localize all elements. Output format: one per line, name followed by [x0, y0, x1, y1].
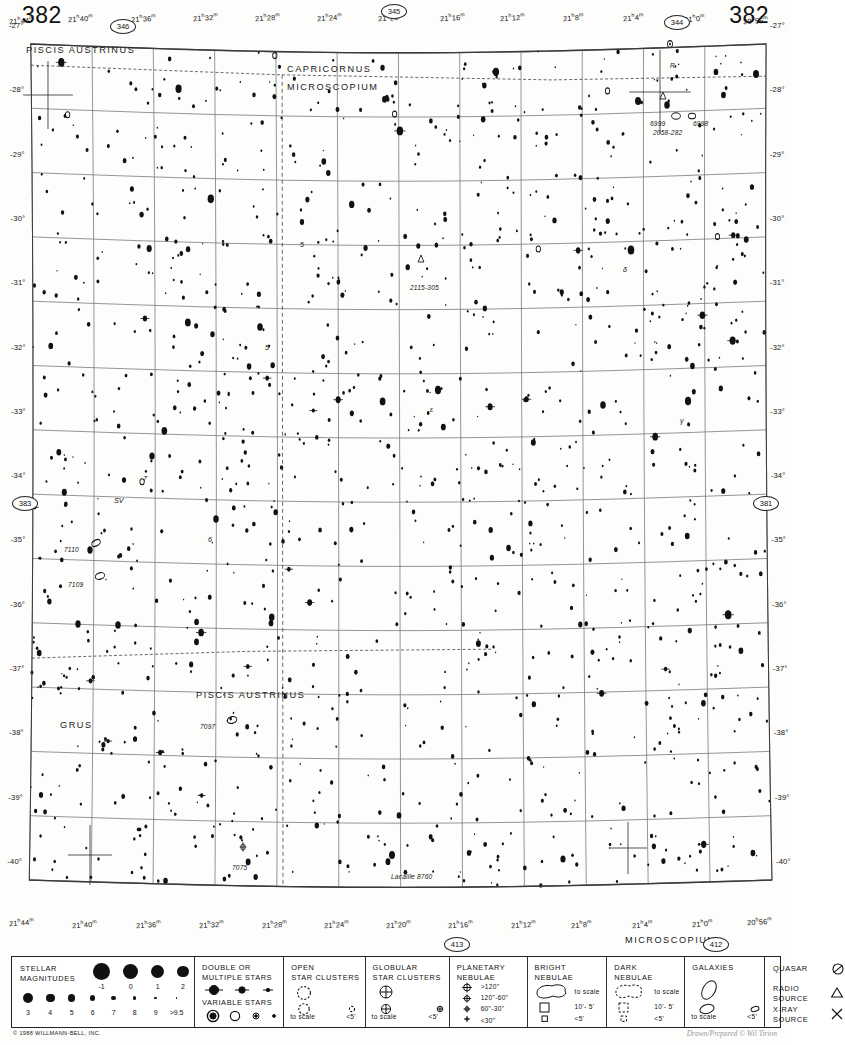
legend-galaxies-scale-label: to scale	[691, 1013, 716, 1020]
ra-label-bottom-7: 21h16m	[448, 919, 474, 930]
sky-map[interactable]: 21h44m21h40m21h36m21h32m21h28m21h24m21h2…	[0, 18, 791, 930]
legend-open-title-1: OPEN	[291, 963, 359, 973]
legend-mag->9.5: >9.5	[170, 997, 184, 1016]
neighbor-chart-383[interactable]: 383	[12, 496, 38, 511]
magnitude-value: 4	[43, 1009, 58, 1016]
dark-nebula-symbols	[613, 982, 653, 1022]
dec-label-right-11: -38°	[774, 729, 789, 737]
object-label-radio-2115-305: 2115-305	[410, 285, 439, 292]
legend-stellar-title-1: STELLAR	[20, 964, 75, 974]
legend-mag-2: 2	[174, 966, 191, 990]
legend-mag-1: 1	[148, 965, 167, 990]
artist-signature: Drawn/Prepared © Wil Tirion	[687, 1029, 777, 1038]
dec-label-right-13: -40°	[776, 858, 791, 866]
legend-dark-small-label: <5'	[654, 1015, 664, 1022]
star-field	[30, 49, 791, 888]
object-label-lacaille-8760: Lacaille 8760	[391, 874, 432, 881]
dec-label-right-6: -33°	[770, 408, 785, 416]
magnitude-value: 7	[107, 1009, 121, 1016]
star-label-star-delta: δ	[623, 266, 627, 273]
legend-mag--1: -1	[90, 963, 113, 990]
star-label-star-6: 6	[208, 536, 212, 543]
legend-open-scale-label: to scale	[290, 1013, 315, 1020]
legend-xray-label-2: SOURCE	[773, 1015, 808, 1025]
magnitude-value: 3	[20, 1009, 36, 1016]
magnitude-value: >9.5	[170, 1009, 184, 1016]
neighbor-chart-346[interactable]: 346	[110, 19, 136, 34]
legend-globular-clusters: GLOBULAR STAR CLUSTERS to scale <5'	[366, 957, 450, 1027]
magnitude-dot	[90, 995, 96, 1001]
ra-label-top-10: 21h4m	[623, 12, 644, 22]
legend-dark-title-1: DARK	[614, 963, 653, 973]
legend-planetary-nebulae: PLANETARY NEBULAE >120" 120"-60" 60"-30"…	[450, 957, 528, 1027]
magnitude-value: 2	[174, 983, 191, 990]
legend-planetary-size-0: >120"	[481, 983, 509, 990]
ra-label-bottom-2: 21h36m	[136, 919, 162, 930]
legend-double-title-1: DOUBLE OR	[202, 963, 272, 973]
legend-globular-small-label: <5'	[429, 1013, 439, 1020]
magnitude-value: 1	[148, 983, 167, 990]
legend-quasar-label: QUASAR	[773, 964, 808, 974]
dec-label-right-0: -27°	[770, 22, 785, 30]
magnitude-dot	[177, 966, 188, 977]
magnitude-dot	[93, 963, 110, 980]
neighbor-chart-381[interactable]: 381	[753, 496, 779, 511]
star-label-star-7: 7	[143, 475, 147, 482]
legend-planetary-size-1: 120"-60"	[481, 994, 509, 1001]
neighbor-chart-344[interactable]: 344	[664, 15, 690, 30]
ra-label-bottom-4: 21h28m	[261, 919, 287, 930]
legend-globular-title-2: STAR CLUSTERS	[373, 973, 441, 983]
legend-planetary-size-3: <30"	[481, 1017, 509, 1024]
magnitude-dot	[133, 996, 137, 1000]
legend-double-variable: DOUBLE OR MULTIPLE STARS VARIABLE STARS	[195, 957, 284, 1027]
dec-label-right-7: -34°	[771, 472, 786, 480]
dec-label-left-9: -36°	[10, 601, 25, 609]
legend-variable-title: VARIABLE STARS	[202, 998, 272, 1008]
quasar-icon	[831, 962, 845, 976]
legend-mag-5: 5	[65, 994, 79, 1016]
legend-mag-9: 9	[149, 997, 163, 1016]
dec-label-left-0: -27°	[9, 22, 24, 30]
ra-label-bottom-11: 21h0m	[691, 918, 712, 928]
copyright-notice: © 1988 WILLMANN-BELL, INC.	[13, 1030, 101, 1036]
legend-xray-label-1: X-RAY	[773, 1005, 808, 1015]
object-label-ngc-6999: 6999	[650, 121, 665, 128]
radio-source-icon	[830, 986, 844, 999]
legend-dark-mid-label: 10'- 5'	[654, 1003, 674, 1010]
dec-label-right-12: -39°	[775, 794, 790, 802]
object-label-ngc-7110: 7110	[64, 547, 79, 554]
dec-label-right-3: -30°	[770, 215, 785, 223]
ra-label-top-5: 21h24m	[316, 12, 342, 23]
double-star-symbols	[204, 984, 280, 996]
legend-planetary-title-1: PLANETARY	[457, 963, 506, 973]
ra-label-bottom-10: 21h4m	[631, 919, 652, 929]
xray-source-icon	[830, 1007, 844, 1021]
dec-label-left-6: -33°	[11, 408, 26, 416]
coordinate-grid	[29, 44, 772, 887]
neighbor-chart-413[interactable]: 413	[444, 937, 470, 952]
ra-label-top-7: 21h16m	[439, 12, 465, 23]
legend-mag-6: 6	[86, 995, 100, 1016]
object-label-ngc-7097: 7097	[200, 724, 215, 731]
dec-label-right-2: -29°	[770, 151, 785, 159]
dec-label-right-9: -36°	[772, 601, 787, 609]
dec-label-left-4: -31°	[11, 279, 26, 287]
magnitude-dot	[123, 964, 138, 979]
ra-label-bottom-6: 21h20m	[386, 919, 412, 930]
neighbor-chart-345[interactable]: 345	[381, 4, 407, 19]
object-label-ngc-7109: 7109	[68, 582, 83, 589]
legend-mag-3: 3	[20, 993, 36, 1016]
dec-label-left-12: -39°	[8, 794, 23, 802]
dec-label-right-10: -37°	[773, 665, 788, 673]
legend-radio-label-1: RADIO	[773, 984, 808, 994]
magnitude-value: 5	[65, 1009, 79, 1016]
constellation-label-piscis-austrinus-lower: PISCIS AUSTRINUS	[196, 691, 305, 700]
ra-label-bottom-3: 21h32m	[199, 919, 225, 930]
dec-label-left-1: -28°	[9, 86, 24, 94]
magnitude-dot	[111, 996, 116, 1001]
legend-galaxies-title: GALAXIES	[692, 963, 733, 973]
neighbor-chart-412[interactable]: 412	[703, 937, 729, 952]
constellation-label-piscis-austrinus-top: PISCIS AUSTRINUS	[26, 46, 135, 55]
ra-label-bottom-8: 21h12m	[510, 919, 536, 930]
legend-globular-scale-label: to scale	[372, 1013, 397, 1020]
